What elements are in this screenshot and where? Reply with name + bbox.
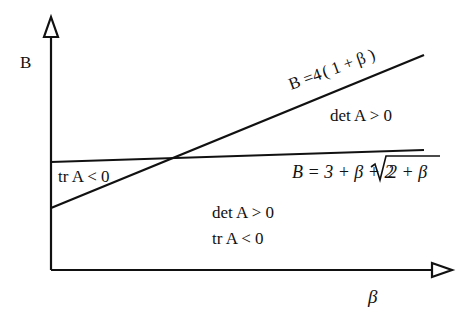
steep-line-label: B =4( 1 + β ) bbox=[286, 45, 378, 94]
steep-line-label-paren: ( 1 + β ) bbox=[319, 45, 377, 82]
region-lower-label-2: tr A < 0 bbox=[212, 229, 264, 248]
y-axis-label: B bbox=[20, 53, 31, 72]
flat-line-label: B = 3 + β + 2 2 + β bbox=[292, 156, 440, 182]
stability-diagram: B β B =4( 1 + β ) det A > 0 B = 3 + β + … bbox=[0, 0, 471, 319]
region-upper-right-label: det A > 0 bbox=[330, 106, 392, 125]
line-b-3-plus-beta-sqrt bbox=[51, 150, 424, 162]
svg-text:B =4( 1 + β ): B =4( 1 + β ) bbox=[286, 45, 378, 94]
x-axis-arrow-icon bbox=[432, 263, 452, 277]
region-left-wedge-label: tr A < 0 bbox=[58, 167, 110, 186]
x-axis-label: β bbox=[367, 286, 378, 307]
y-axis-arrow-icon bbox=[44, 17, 58, 37]
flat-line-label-radicand: 2 + β bbox=[388, 162, 427, 182]
region-lower-label-1: det A > 0 bbox=[212, 203, 274, 222]
steep-line-label-prefix: B =4 bbox=[286, 64, 325, 94]
